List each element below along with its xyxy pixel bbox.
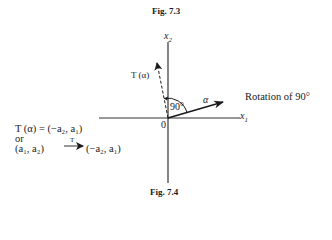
angle-label: 90° (170, 101, 184, 112)
x2-axis-label: x2 (164, 30, 172, 44)
mapping-arrow-label: T (70, 136, 74, 144)
rotation-annotation: Rotation of 90° (245, 91, 310, 102)
figure-caption-bottom: Fig. 7.4 (150, 187, 178, 197)
t-alpha-label: T (α) (131, 70, 149, 80)
equation-line-1: T (α) = (−a₂, a₁) (15, 123, 82, 134)
x1-axis-label: x1 (240, 110, 248, 124)
t-alpha-vector (157, 63, 168, 118)
alpha-label: α (203, 94, 208, 105)
equation-line-3-left: (a₁, a₂) (15, 143, 44, 154)
origin-label: 0 (161, 119, 166, 130)
equation-line-3-right: (−a₂, a₁) (86, 143, 121, 154)
